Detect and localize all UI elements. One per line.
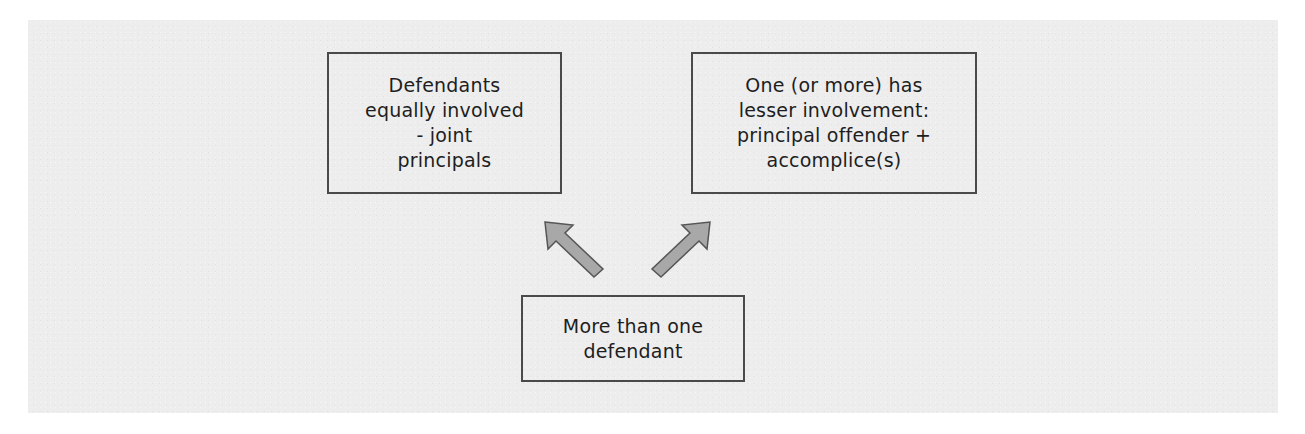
box-text-line: lesser involvement: bbox=[739, 98, 930, 123]
more-than-one-defendant-box: More than one defendant bbox=[521, 295, 745, 382]
box-text-line: More than one bbox=[563, 314, 703, 339]
box-text-line: principal offender + bbox=[737, 123, 931, 148]
box-text-line: defendant bbox=[583, 339, 682, 364]
joint-principals-box: Defendants equally involved - joint prin… bbox=[327, 52, 562, 194]
box-text-line: - joint bbox=[417, 123, 473, 148]
box-text-line: Defendants bbox=[389, 73, 501, 98]
box-text-line: principals bbox=[398, 148, 492, 173]
principal-and-accomplice-box: One (or more) has lesser involvement: pr… bbox=[691, 52, 977, 194]
box-text-line: equally involved bbox=[365, 98, 524, 123]
box-text-line: One (or more) has bbox=[745, 73, 922, 98]
box-text-line: accomplice(s) bbox=[767, 148, 902, 173]
